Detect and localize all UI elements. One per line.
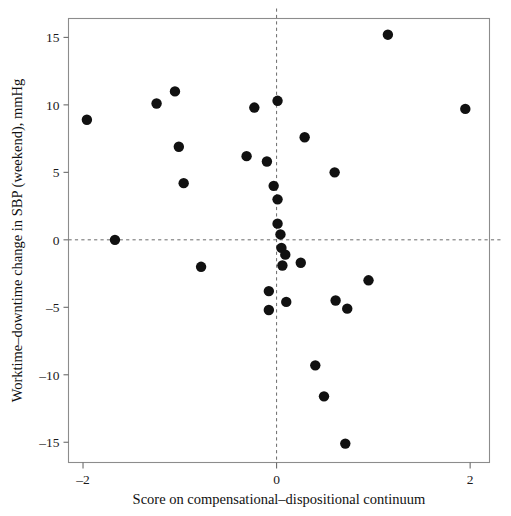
data-point [272, 194, 282, 204]
y-axis-tick-label: –15 [38, 435, 60, 450]
data-point [241, 151, 251, 161]
data-point [280, 249, 290, 259]
y-axis-tick-label: –5 [45, 300, 60, 315]
scatter-plot-figure: 151050–5–10–15–202Score on compensationa… [0, 0, 511, 516]
data-point [310, 360, 320, 370]
y-axis-title: Worktime–downtime change in SBP (weekend… [9, 79, 26, 403]
x-axis-tick-label: 2 [467, 472, 474, 487]
data-point [262, 156, 272, 166]
y-axis-tick-label: 15 [46, 30, 60, 45]
data-point [178, 178, 188, 188]
data-point [383, 29, 393, 39]
data-point [275, 229, 285, 239]
data-point [264, 305, 274, 315]
plot-canvas: 151050–5–10–15–202Score on compensationa… [0, 0, 511, 516]
data-point [196, 262, 206, 272]
y-axis-tick-label: 5 [53, 165, 60, 180]
x-axis-tick-label: 0 [273, 472, 280, 487]
data-point [268, 181, 278, 191]
data-point [174, 142, 184, 152]
data-point [264, 286, 274, 296]
x-axis-tick-label: –2 [75, 472, 90, 487]
data-point [82, 115, 92, 125]
data-point [277, 260, 287, 270]
data-point [281, 297, 291, 307]
data-point [363, 275, 373, 285]
data-point [299, 132, 309, 142]
data-point [151, 98, 161, 108]
data-point [110, 235, 120, 245]
data-point [170, 86, 180, 96]
plot-frame [69, 19, 490, 463]
data-point [319, 391, 329, 401]
y-axis-tick-label: –10 [38, 368, 60, 383]
data-point [342, 303, 352, 313]
data-point [272, 218, 282, 228]
data-point [330, 295, 340, 305]
data-point [296, 258, 306, 268]
data-point [340, 438, 350, 448]
data-point [272, 96, 282, 106]
y-axis-tick-label: 0 [53, 233, 60, 248]
x-axis-title: Score on compensational–dispositional co… [133, 491, 426, 507]
data-point [329, 167, 339, 177]
y-axis-tick-label: 10 [46, 98, 60, 113]
data-point [460, 104, 470, 114]
data-point [249, 102, 259, 112]
